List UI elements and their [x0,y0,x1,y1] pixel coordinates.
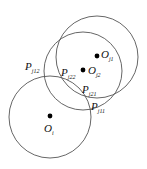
label-p-j1-2: Pj12 [24,60,39,74]
label-p-j1-1: Pj11 [90,100,105,114]
label-o-j1: Oj1 [101,48,114,62]
label-o-i: Oi [44,122,54,136]
label-p-j2-1: Pj21 [81,83,96,97]
label-p-j2-2: Pj22 [60,66,75,80]
label-o-j2: Oj2 [88,64,101,78]
center-point-o-j2 [81,68,86,73]
circle-intersection-diagram: Oj1 Oj2 Oi Pj12 Pj22 Pj21 Pj11 [0,0,147,169]
center-point-o-i [48,114,53,119]
center-point-o-j1 [95,54,100,59]
